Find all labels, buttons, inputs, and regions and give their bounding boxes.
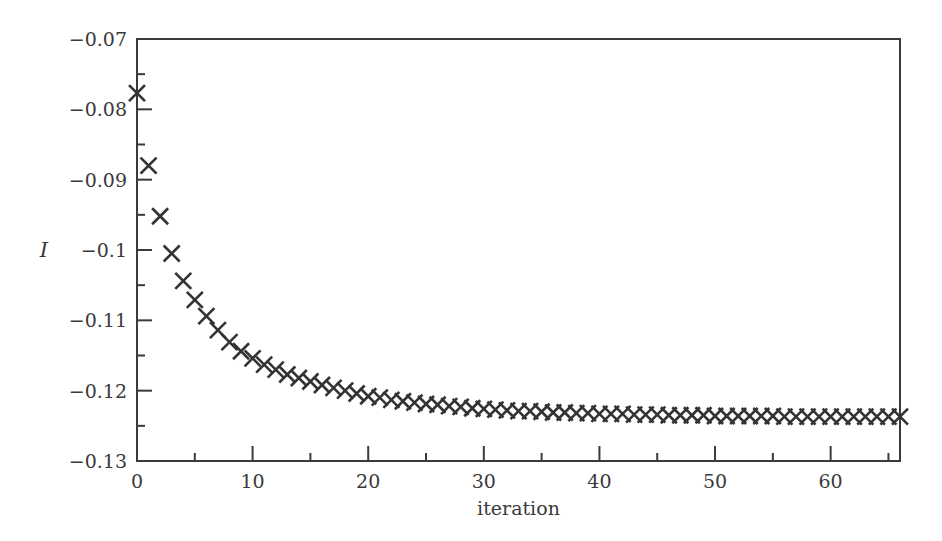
- x-tick-label: 60: [819, 470, 843, 492]
- x-tick-label: 30: [472, 470, 496, 492]
- x-axis-label: iteration: [477, 497, 560, 519]
- x-marker-icon: [337, 383, 353, 399]
- y-axis-label: I: [39, 238, 49, 262]
- x-tick-label: 20: [356, 470, 380, 492]
- x-marker-icon: [314, 377, 330, 393]
- x-marker-icon: [141, 158, 157, 174]
- x-marker-icon: [164, 246, 180, 262]
- x-marker-icon: [221, 334, 237, 350]
- x-marker-icon: [302, 374, 318, 390]
- y-tick-label: −0.13: [69, 450, 127, 472]
- plot-frame: [137, 39, 900, 461]
- y-tick-label: −0.12: [69, 380, 127, 402]
- x-marker-icon: [198, 308, 214, 324]
- y-tick-label: −0.08: [69, 98, 127, 120]
- y-tick-label: −0.11: [69, 309, 127, 331]
- data-markers: [129, 85, 908, 425]
- x-marker-icon: [187, 292, 203, 308]
- y-tick-label: −0.1: [81, 239, 127, 261]
- x-marker-icon: [175, 273, 191, 289]
- x-marker-icon: [152, 208, 168, 224]
- y-tick-label: −0.09: [69, 169, 127, 191]
- x-marker-icon: [291, 370, 307, 386]
- x-marker-icon: [326, 380, 342, 396]
- y-tick-label: −0.07: [69, 28, 127, 50]
- x-tick-label: 0: [131, 470, 143, 492]
- x-tick-label: 10: [241, 470, 265, 492]
- x-marker-icon: [349, 385, 365, 401]
- x-axis: 0102030405060: [131, 446, 888, 492]
- x-tick-label: 50: [703, 470, 727, 492]
- x-tick-label: 40: [587, 470, 611, 492]
- chart: −0.07−0.08−0.09−0.1−0.11−0.12−0.13 01020…: [0, 0, 942, 541]
